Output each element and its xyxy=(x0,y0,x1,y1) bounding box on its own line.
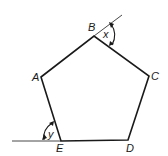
vertex-label-e: E xyxy=(56,142,64,154)
vertex-label-c: C xyxy=(151,70,159,82)
vertex-label-d: D xyxy=(126,142,134,154)
pentagon-diagram: A B C D E x y xyxy=(0,0,168,156)
angle-label-x: x xyxy=(102,28,109,40)
pentagon-abcde xyxy=(41,36,149,141)
angle-x-arc xyxy=(109,22,115,46)
angle-label-y: y xyxy=(47,128,55,140)
vertex-label-a: A xyxy=(31,71,39,83)
vertex-label-b: B xyxy=(88,21,95,33)
